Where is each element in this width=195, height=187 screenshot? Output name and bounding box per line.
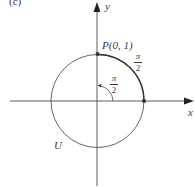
x-axis — [10, 98, 194, 105]
x-axis-label: x — [188, 107, 193, 118]
arc-length-label: π 2 — [134, 52, 142, 73]
unit-circle-figure: (c) y x P(0, 1) U π 2 π 2 — [0, 0, 195, 187]
angle-label: π 2 — [110, 74, 118, 95]
angle-numerator: π — [111, 74, 118, 83]
point-p-label: P(0, 1) — [102, 40, 133, 51]
point-1-0 — [142, 99, 146, 103]
y-axis — [94, 2, 101, 186]
diagram-canvas — [0, 0, 195, 187]
arc-length-numerator: π — [135, 52, 142, 61]
x-axis-arrow-icon — [184, 98, 194, 105]
y-axis-arrow-icon — [94, 2, 101, 12]
arc-length-denominator: 2 — [136, 64, 141, 73]
y-axis-label: y — [105, 1, 110, 12]
panel-label: (c) — [9, 0, 21, 7]
circle-label: U — [54, 140, 62, 151]
angle-denominator: 2 — [112, 86, 117, 95]
point-p — [96, 52, 100, 56]
